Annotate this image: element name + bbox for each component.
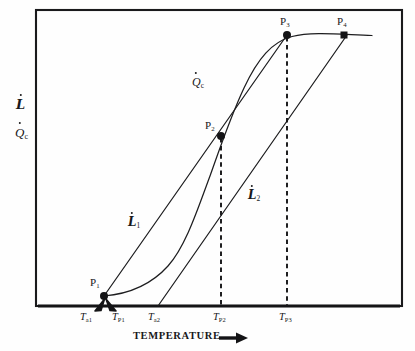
point-label-p3: P3 xyxy=(280,16,290,29)
x-tick-ta1-subscript: a1 xyxy=(86,316,92,323)
plot-frame xyxy=(36,10,402,306)
x-tick-label-ta1: Ta1 xyxy=(80,312,92,323)
marker-p2 xyxy=(217,132,225,140)
curve-cooling-capacity xyxy=(104,34,372,296)
point-label-p4: P4 xyxy=(337,16,347,29)
point-label-p2-subscript: 2 xyxy=(211,125,214,132)
x-tick-tp1-subscript: P1 xyxy=(118,316,125,323)
point-label-p1: P1 xyxy=(90,277,100,290)
point-label-p2: P2 xyxy=(205,120,215,133)
y-axis-label-load-symbol: L xyxy=(16,98,25,111)
x-tick-tp3-subscript: P3 xyxy=(285,316,292,323)
curve-label-qc-subscript: c xyxy=(201,81,204,90)
curve-label-l2-symbol: L xyxy=(248,189,256,201)
x-axis-title: TEMPERATURE xyxy=(133,331,221,342)
marker-p3 xyxy=(283,31,291,39)
curve-label-l1-symbol: L xyxy=(128,216,136,228)
curve-load-line-2 xyxy=(158,35,347,306)
x-tick-ta2-subscript: a2 xyxy=(154,316,160,323)
point-label-p4-subscript: 4 xyxy=(343,21,346,28)
y-axis-label-qc: Qc xyxy=(15,126,28,141)
curve-label-load-line-1: L1 xyxy=(128,216,140,230)
x-tick-label-ta2: Ta2 xyxy=(148,312,160,323)
curve-label-load-line-2: L2 xyxy=(248,189,260,203)
y-axis-label-load: L xyxy=(16,98,25,111)
right-arrow-icon xyxy=(219,333,248,344)
curve-label-l1-subscript: 1 xyxy=(136,221,140,230)
x-tick-label-tp3: TP3 xyxy=(279,312,292,323)
x-tick-tp2-subscript: P2 xyxy=(219,316,226,323)
curve-label-qc-symbol: Q xyxy=(192,76,201,88)
point-label-p3-subscript: 3 xyxy=(286,21,289,28)
x-tick-label-tp2: TP2 xyxy=(213,312,226,323)
chart-canvas xyxy=(0,0,415,351)
curve-label-l2-subscript: 2 xyxy=(256,194,260,203)
curve-label-cooling-capacity: Qc xyxy=(192,76,204,90)
y-axis-label-qc-subscript: c xyxy=(24,132,28,141)
x-tick-label-tp1: TP1 xyxy=(112,312,125,323)
point-label-p1-subscript: 1 xyxy=(96,282,99,289)
marker-p4 xyxy=(341,32,348,39)
figure-container: L Qc Qc L1 L2 P1 P2 P3 P4 Ta1 TP1 Ta2 TP… xyxy=(0,0,415,351)
y-axis-label-qc-symbol: Q xyxy=(15,126,24,139)
